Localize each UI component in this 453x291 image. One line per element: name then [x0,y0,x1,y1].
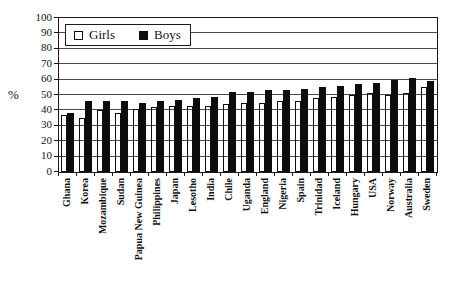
x-label-india: India [205,178,217,201]
y-tick-label-80: 80 [20,41,52,54]
legend: Girls Boys [65,24,191,46]
x-label-korea: Korea [79,178,91,204]
x-tick-1 [76,172,77,176]
x-tick-0 [58,172,59,176]
bar-boys-korea [85,101,92,172]
x-label-ghana: Ghana [61,178,73,207]
x-label-nigeria: Nigeria [277,178,289,210]
legend-girls-label: Girls [89,27,115,43]
y-tick-label-30: 30 [20,118,52,131]
x-label-england: England [259,178,271,214]
x-label-japan: Japan [169,178,181,204]
x-label-philippines: Philippines [151,178,163,226]
x-label-australia: Australia [403,178,415,218]
bar-boys-nigeria [283,90,290,172]
y-tick-20 [54,140,58,141]
x-label-uganda: Uganda [241,178,253,211]
bar-boys-spain [301,89,308,172]
x-tick-20 [418,172,419,176]
x-label-usa: USA [367,178,379,198]
bar-boys-india [211,97,218,172]
x-label-spain: Spain [295,178,307,202]
y-tick-90 [54,32,58,33]
y-tick-label-90: 90 [20,26,52,39]
y-tick-10 [54,156,58,157]
x-tick-21 [436,172,437,176]
bar-boys-sweden [427,81,434,172]
y-tick-label-60: 60 [20,72,52,85]
y-tick-label-40: 40 [20,103,52,116]
x-tick-18 [382,172,383,176]
x-label-sudan: Sudan [115,178,127,205]
gridline-60 [59,79,437,80]
bar-chart-figure: % Girls Boys 0102030405060708090100 Ghan… [0,0,453,291]
y-tick-50 [54,94,58,95]
x-tick-6 [166,172,167,176]
bar-boys-iceland [337,86,344,172]
legend-boys-label: Boys [154,27,181,43]
x-label-sweden: Sweden [421,178,433,211]
x-label-hungary: Hungary [349,178,361,216]
bar-boys-usa [373,83,380,172]
bar-boys-australia [409,78,416,172]
y-tick-label-50: 50 [20,88,52,101]
bar-boys-mozambique [103,101,110,172]
x-tick-16 [346,172,347,176]
y-tick-label-0: 0 [20,165,52,178]
y-tick-label-70: 70 [20,57,52,70]
x-tick-5 [148,172,149,176]
y-tick-40 [54,109,58,110]
plot-area: Girls Boys [58,17,438,173]
bar-boys-sudan [121,101,128,172]
x-tick-13 [292,172,293,176]
y-tick-label-100: 100 [20,11,52,24]
x-tick-11 [256,172,257,176]
bar-boys-philippines [157,101,164,172]
x-label-iceland: Iceland [331,178,343,210]
x-label-chile: Chile [223,178,235,201]
x-tick-12 [274,172,275,176]
y-tick-100 [54,17,58,18]
x-tick-9 [220,172,221,176]
y-tick-80 [54,48,58,49]
bar-boys-norway [391,80,398,172]
x-tick-7 [184,172,185,176]
x-tick-3 [112,172,113,176]
x-label-lesotho: Lesotho [187,178,199,212]
y-axis-unit-label: % [8,87,19,103]
bar-boys-hungary [355,84,362,172]
y-tick-60 [54,79,58,80]
x-tick-10 [238,172,239,176]
x-label-mozambique: Mozambique [97,178,109,234]
x-label-papua-new-guinea: Papua New Guinea [133,178,145,260]
bar-boys-trinidad [319,87,326,172]
x-label-norway: Norway [385,178,397,212]
x-tick-15 [328,172,329,176]
bar-boys-uganda [247,92,254,172]
gridline-80 [59,48,437,49]
x-tick-2 [94,172,95,176]
girls-swatch-icon [74,31,83,40]
x-tick-4 [130,172,131,176]
x-tick-14 [310,172,311,176]
x-tick-8 [202,172,203,176]
bar-boys-lesotho [193,98,200,172]
x-tick-17 [364,172,365,176]
y-tick-label-10: 10 [20,149,52,162]
y-tick-70 [54,63,58,64]
bar-boys-chile [229,92,236,172]
bar-boys-ghana [67,113,74,172]
bar-boys-papua-new-guinea [139,103,146,172]
x-tick-19 [400,172,401,176]
y-tick-30 [54,125,58,126]
gridline-70 [59,63,437,64]
x-label-trinidad: Trinidad [313,178,325,216]
boys-swatch-icon [139,31,148,40]
y-tick-label-20: 20 [20,134,52,147]
bar-boys-england [265,90,272,172]
bar-boys-japan [175,100,182,172]
